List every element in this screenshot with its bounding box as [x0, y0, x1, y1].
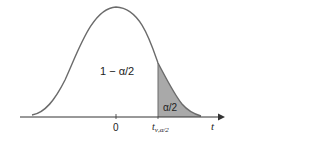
critical-value-label: tν,α/2: [152, 122, 169, 134]
central-area-label: 1 − α/2: [100, 66, 134, 77]
tail-area-label: α/2: [163, 103, 177, 113]
origin-label: 0: [113, 123, 119, 133]
axis-arrow-icon: [218, 114, 225, 121]
axis-label: t: [211, 121, 214, 132]
critical-value-subscript: ν,α/2: [155, 126, 169, 134]
